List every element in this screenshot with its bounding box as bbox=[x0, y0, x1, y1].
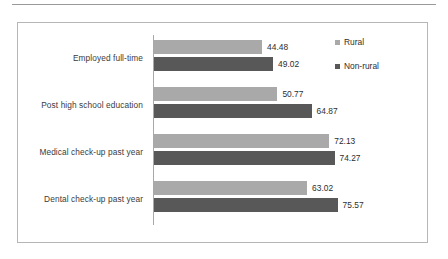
bar-value-label: 50.77 bbox=[282, 89, 303, 99]
bar-pair: 50.77 64.87 bbox=[154, 82, 427, 129]
legend-item-non-rural: Non-rural bbox=[335, 61, 413, 71]
plot-area: Employed full-time 44.48 49.02 Post high… bbox=[18, 23, 427, 242]
bar-value-label: 64.87 bbox=[317, 106, 338, 116]
legend-label: Rural bbox=[344, 37, 364, 47]
bar-value-label: 75.57 bbox=[343, 200, 364, 210]
category-label: Medical check-up past year bbox=[18, 129, 146, 176]
bar-rural bbox=[154, 134, 329, 148]
bar-group: Post high school education 50.77 64.87 bbox=[18, 82, 427, 129]
category-label: Post high school education bbox=[18, 82, 146, 129]
bar-row: 72.13 bbox=[154, 134, 355, 148]
bar-nonrural bbox=[154, 57, 273, 71]
legend-swatch-icon bbox=[335, 40, 340, 45]
legend-swatch-icon bbox=[335, 64, 340, 69]
category-label: Dental check-up past year bbox=[18, 176, 146, 223]
bar-nonrural bbox=[154, 104, 312, 118]
bar-group: Dental check-up past year 63.02 75.57 bbox=[18, 176, 427, 223]
bar-row: 49.02 bbox=[154, 57, 299, 71]
category-label: Employed full-time bbox=[18, 35, 146, 82]
bar-rural bbox=[154, 181, 307, 195]
bar-row: 64.87 bbox=[154, 104, 338, 118]
bar-group: Medical check-up past year 72.13 74.27 bbox=[18, 129, 427, 176]
bar-nonrural bbox=[154, 151, 335, 165]
bar-row: 74.27 bbox=[154, 151, 360, 165]
bar-rural bbox=[154, 40, 262, 54]
bar-pair: 63.02 75.57 bbox=[154, 176, 427, 223]
bar-value-label: 44.48 bbox=[267, 42, 288, 52]
bar-row: 50.77 bbox=[154, 87, 303, 101]
bar-nonrural bbox=[154, 198, 338, 212]
bar-row: 63.02 bbox=[154, 181, 333, 195]
bar-row: 75.57 bbox=[154, 198, 364, 212]
bar-rural bbox=[154, 87, 277, 101]
bar-value-label: 72.13 bbox=[334, 136, 355, 146]
legend-label: Non-rural bbox=[344, 61, 379, 71]
chart-legend: Rural Non-rural bbox=[335, 37, 413, 85]
bar-row: 44.48 bbox=[154, 40, 288, 54]
chart-figure: Employed full-time 44.48 49.02 Post high… bbox=[17, 22, 428, 243]
bar-value-label: 74.27 bbox=[340, 153, 361, 163]
header-divider bbox=[12, 4, 436, 5]
bar-value-label: 63.02 bbox=[312, 183, 333, 193]
legend-item-rural: Rural bbox=[335, 37, 413, 47]
bar-pair: 72.13 74.27 bbox=[154, 129, 427, 176]
bar-value-label: 49.02 bbox=[278, 59, 299, 69]
